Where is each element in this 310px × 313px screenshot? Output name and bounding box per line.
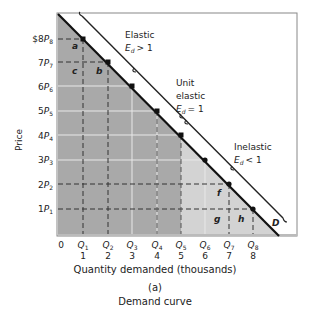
svg-text:a: a <box>72 41 78 51</box>
y-tick-labels: $8P8 7P7 6P6 5P5 4P4 3P3 2P2 1P1 <box>32 34 53 215</box>
svg-text:4: 4 <box>154 251 160 261</box>
svg-text:Q5: Q5 <box>176 240 187 251</box>
svg-text:Q2: Q2 <box>103 240 114 251</box>
svg-text:2: 2 <box>105 251 111 261</box>
svg-text:$8P8: $8P8 <box>32 34 53 45</box>
svg-text:c: c <box>72 66 78 76</box>
svg-text:4P4: 4P4 <box>38 131 53 142</box>
chart-title: Demand curve <box>0 296 310 307</box>
svg-text:b: b <box>96 66 103 76</box>
svg-text:7P7: 7P7 <box>38 58 53 69</box>
svg-text:Ed= 1: Ed= 1 <box>176 104 204 115</box>
svg-text:Q8: Q8 <box>248 240 259 251</box>
y-axis-label: Price <box>14 129 24 151</box>
svg-text:Q6: Q6 <box>200 240 211 251</box>
svg-text:7: 7 <box>226 251 232 261</box>
inelastic-label: Inelastic <box>234 142 272 152</box>
svg-text:Q3: Q3 <box>127 240 138 251</box>
elastic-label: Elastic <box>125 30 154 40</box>
svg-text:Q1: Q1 <box>78 240 89 251</box>
svg-text:8: 8 <box>250 251 256 261</box>
svg-text:1P1: 1P1 <box>38 204 53 215</box>
svg-text:2P2: 2P2 <box>38 180 53 191</box>
panel-label: (a) <box>0 282 310 293</box>
svg-text:Q7: Q7 <box>224 240 235 251</box>
x-axis-label: Quantity demanded (thousands) <box>0 264 310 275</box>
unit-elastic-label-1: Unit <box>176 78 195 88</box>
svg-text:0: 0 <box>58 240 64 250</box>
svg-text:Ed< 1: Ed< 1 <box>234 155 262 166</box>
curve-label: D <box>272 218 280 228</box>
x-tick-labels: 0 Q1 Q2 Q3 Q4 Q5 Q6 Q7 Q8 1 2 3 4 5 6 7 … <box>58 240 259 261</box>
svg-text:3: 3 <box>129 251 135 261</box>
svg-text:5P5: 5P5 <box>38 106 53 117</box>
svg-text:6P6: 6P6 <box>38 82 53 93</box>
svg-text:3P3: 3P3 <box>38 155 53 166</box>
svg-text:1: 1 <box>80 251 86 261</box>
svg-text:g: g <box>214 214 221 224</box>
svg-text:h: h <box>238 214 244 224</box>
unit-elastic-label-2: elastic <box>176 91 205 101</box>
svg-text:6: 6 <box>202 251 208 261</box>
svg-text:Q4: Q4 <box>152 240 163 251</box>
svg-text:Ed> 1: Ed> 1 <box>125 43 153 54</box>
svg-text:5: 5 <box>178 251 184 261</box>
